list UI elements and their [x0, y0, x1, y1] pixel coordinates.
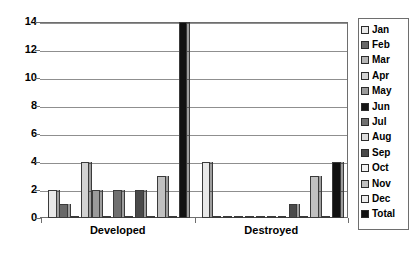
legend-item-label: Jun: [372, 102, 390, 112]
bar-body: [48, 190, 57, 218]
y-axis-tick: [35, 134, 40, 135]
legend-swatch-icon: [361, 56, 369, 64]
legend-item[interactable]: May: [361, 84, 408, 99]
legend-item[interactable]: Nov: [361, 176, 408, 191]
bar-side-shadow: [144, 190, 147, 218]
chart-figure: 02468101214 JanFebMarAprMayJunJulAugSepO…: [0, 0, 415, 255]
bar-side-shadow: [100, 190, 103, 218]
legend-item[interactable]: Dec: [361, 191, 408, 206]
bar-body: [256, 216, 265, 218]
legend-item-label: Mar: [372, 55, 390, 65]
legend-swatch-icon: [361, 210, 369, 218]
y-axis-tick-label: 0: [7, 212, 37, 223]
legend-item[interactable]: Jan: [361, 22, 408, 37]
legend-item[interactable]: Total: [361, 207, 408, 222]
bar-body: [223, 216, 232, 218]
legend-item[interactable]: Oct: [361, 161, 408, 176]
bar-body: [168, 216, 177, 218]
bar-body: [146, 216, 155, 218]
bar-body: [212, 216, 221, 218]
legend: JanFebMarAprMayJunJulAugSepOctNovDecTota…: [358, 18, 409, 230]
bar-side-shadow: [341, 162, 344, 218]
bar-body: [124, 216, 133, 218]
legend-item[interactable]: Mar: [361, 53, 408, 68]
bar: [124, 217, 133, 219]
y-axis-tick-label: 14: [7, 16, 37, 27]
bar: [135, 190, 144, 218]
bar: [300, 217, 309, 219]
bar: [70, 217, 79, 219]
legend-item[interactable]: Aug: [361, 130, 408, 145]
legend-item[interactable]: Feb: [361, 37, 408, 52]
bar-body: [321, 216, 330, 218]
bar: [59, 204, 68, 218]
legend-swatch-icon: [361, 87, 369, 95]
y-axis-tick: [35, 78, 40, 79]
y-axis-tick: [35, 106, 40, 107]
legend-swatch-icon: [361, 26, 369, 34]
legend-swatch-icon: [361, 118, 369, 126]
bar-body: [81, 162, 90, 218]
y-axis-tick: [35, 50, 40, 51]
bar: [289, 204, 298, 218]
legend-item-label: Nov: [372, 179, 391, 189]
x-axis-category-label: Destroyed: [195, 224, 349, 236]
legend-item-label: Oct: [372, 163, 389, 173]
legend-item[interactable]: Sep: [361, 145, 408, 160]
bar: [48, 190, 57, 218]
bar: [256, 217, 265, 219]
y-axis-tick-label: 8: [7, 100, 37, 111]
bar: [92, 190, 101, 218]
legend-item[interactable]: Jun: [361, 99, 408, 114]
bar-body: [310, 176, 319, 218]
bar: [146, 217, 155, 219]
bar-body: [289, 204, 298, 218]
legend-item[interactable]: Jul: [361, 114, 408, 129]
bar-body: [179, 22, 188, 218]
bar-side-shadow: [122, 190, 125, 218]
bar-body: [234, 216, 243, 218]
bar-body: [278, 216, 287, 218]
bars-layer: [41, 22, 348, 218]
bar: [321, 217, 330, 219]
bar-body: [332, 162, 341, 218]
legend-item-label: Aug: [372, 132, 391, 142]
legend-swatch-icon: [361, 41, 369, 49]
bar-body: [92, 190, 101, 218]
legend-swatch-icon: [361, 103, 369, 111]
bar-body: [135, 190, 144, 218]
bar-body: [157, 176, 166, 218]
y-axis-tick-label: 4: [7, 156, 37, 167]
legend-item-label: May: [372, 86, 391, 96]
legend-item-label: Dec: [372, 194, 390, 204]
bar: [234, 217, 243, 219]
bar-side-shadow: [187, 22, 190, 218]
legend-item-label: Jul: [372, 117, 386, 127]
x-axis-tick: [195, 218, 196, 223]
y-axis-tick-label: 10: [7, 72, 37, 83]
legend-item-label: Apr: [372, 71, 389, 81]
legend-item[interactable]: Apr: [361, 68, 408, 83]
bar: [267, 217, 276, 219]
bar-body: [245, 216, 254, 218]
legend-swatch-icon: [361, 195, 369, 203]
x-axis-tick: [348, 218, 349, 223]
bar: [212, 217, 221, 219]
bar-side-shadow: [210, 162, 213, 218]
bar: [278, 217, 287, 219]
legend-item-label: Sep: [372, 148, 390, 158]
bar: [245, 217, 254, 219]
bar-body: [70, 216, 79, 218]
bar: [179, 22, 188, 218]
x-axis-tick: [41, 218, 42, 223]
bar-body: [103, 216, 112, 218]
y-axis-tick: [35, 22, 40, 23]
bar-body: [202, 162, 211, 218]
bar-side-shadow: [166, 176, 169, 218]
legend-item-label: Feb: [372, 40, 390, 50]
x-axis-category-label: Developed: [41, 224, 195, 236]
y-axis-tick-label: 12: [7, 44, 37, 55]
bar: [103, 217, 112, 219]
bar: [168, 217, 177, 219]
y-axis-tick: [35, 218, 40, 219]
